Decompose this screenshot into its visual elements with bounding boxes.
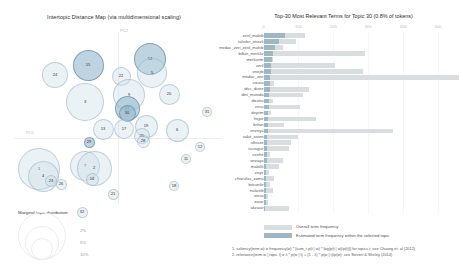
x-axis-tick-label: 300 (365, 24, 372, 29)
right-panel-title: Top-30 Most Relevant Terms for Topic 30 … (228, 13, 459, 19)
term-row[interactable]: zeyir (232, 170, 459, 176)
topic-bubble-label: 24 (53, 73, 57, 77)
x-axis-tick-label: 400 (400, 24, 407, 29)
term-label[interactable]: zeyir (255, 170, 264, 175)
overall-frequency-bar (264, 140, 291, 145)
term-row[interactable]: vizura (232, 81, 459, 87)
estimated-frequency-bar (264, 39, 279, 44)
term-label[interactable]: tahriler_enezli (238, 39, 264, 44)
term-label[interactable]: vizura (253, 80, 264, 85)
topic-bubble-label: 28 (141, 139, 145, 143)
x-axis-tick-label: 100 (295, 24, 302, 29)
overall-frequency-swatch (264, 225, 292, 230)
term-row[interactable]: sirehe (232, 152, 459, 158)
term-label[interactable]: bitcunile (248, 182, 263, 187)
term-row[interactable]: deyrim (232, 110, 459, 116)
term-label[interactable]: sirehe (252, 152, 263, 157)
term-label[interactable]: merkurim (246, 57, 263, 62)
term-row[interactable]: ulhisze (232, 140, 459, 146)
estimated-frequency-bar (264, 99, 270, 104)
term-label[interactable]: zarar (254, 199, 263, 204)
term-label[interactable]: zeril_mahib (243, 33, 264, 38)
term-label[interactable]: malollit (251, 164, 264, 169)
term-row[interactable]: enejib (232, 69, 459, 75)
term-row[interactable]: britan (232, 122, 459, 128)
pyldavis-app: Intertopic Distance Map (via multidimens… (0, 0, 459, 277)
term-row[interactable]: onzaya (232, 158, 459, 164)
term-row[interactable]: merkurim (232, 57, 459, 63)
intertopic-distance-map[interactable]: PC2 PC1 24153145229202730131719252862914… (14, 26, 222, 204)
marginal-legend-percent: 10% (80, 252, 88, 257)
overall-frequency-bar (264, 135, 298, 140)
overall-frequency-bar (264, 87, 309, 92)
term-row[interactable]: malollit (232, 164, 459, 170)
marginal-legend-ring (31, 238, 53, 260)
overall-frequency-bar (264, 51, 365, 56)
term-row[interactable]: akzasir (232, 206, 459, 212)
estimated-frequency-bar (264, 140, 268, 145)
topic-bubble-label: 20 (167, 92, 171, 96)
overall-frequency-bar (264, 117, 316, 122)
estimated-frequency-bar (264, 81, 271, 86)
term-label[interactable]: zieva (254, 193, 264, 198)
term-row[interactable]: dini_munida (232, 93, 459, 99)
estimated-frequency-bar (264, 75, 271, 80)
legend-row-overall: Overall term frequency (264, 224, 459, 231)
term-row[interactable]: medac_zeri (232, 75, 459, 81)
estimated-frequency-bar (264, 57, 272, 62)
term-row[interactable]: medac_zeri_zeril_mahib (232, 45, 459, 51)
term-row[interactable]: bilkar_merkliz (232, 51, 459, 57)
term-label[interactable]: diezira (251, 98, 263, 103)
term-label[interactable]: britan (253, 122, 263, 127)
term-row[interactable]: zeril_mahib (232, 33, 459, 39)
topic-bubble-label: 26 (59, 182, 63, 186)
term-label[interactable]: onzaya (250, 158, 263, 163)
topic-bubble-label: 11 (184, 157, 188, 161)
term-label[interactable]: akzasir (251, 205, 264, 210)
topic-bubble-label: 22 (119, 74, 123, 78)
formula-notes: 1. saliency(term w) = frequency(w) * [su… (232, 246, 458, 259)
topic-bubble-label: 13 (101, 127, 105, 131)
term-label[interactable]: ulhisze (251, 140, 264, 145)
term-label[interactable]: iscragce (248, 146, 263, 151)
term-row[interactable]: chiurulas_zoma (232, 176, 459, 182)
term-row[interactable]: zieva (232, 194, 459, 200)
axis-label-pc1: PC1 (26, 130, 34, 135)
term-row[interactable]: zarar (232, 200, 459, 206)
term-row[interactable]: tahriler_enezli (232, 39, 459, 45)
term-row[interactable]: diezira (232, 98, 459, 104)
term-row[interactable]: vakit_zaten (232, 134, 459, 140)
term-frequency-barchart: 0100200300400500 zeril_mahibtahriler_ene… (232, 24, 459, 216)
term-row[interactable]: hiçpir (232, 116, 459, 122)
term-label[interactable]: enejib (253, 69, 264, 74)
term-label[interactable]: chiurulas_zoma (235, 176, 264, 181)
x-axis-tick-label: 500 (435, 24, 442, 29)
overall-frequency-bar (264, 105, 301, 110)
estimated-frequency-bar (264, 51, 273, 56)
term-row[interactable]: bitcunile (232, 182, 459, 188)
overall-frequency-bar (264, 206, 290, 211)
term-label[interactable]: dini_munida (241, 92, 263, 97)
term-label[interactable]: medac_zeri (242, 74, 263, 79)
term-label[interactable]: virsu (255, 104, 264, 109)
term-row[interactable]: zeril (232, 63, 459, 69)
term-row[interactable]: virsu (232, 104, 459, 110)
term-row[interactable]: nulareb (232, 188, 459, 194)
term-label[interactable]: zeril (256, 63, 264, 68)
term-row[interactable]: idvc_dizire (232, 87, 459, 93)
estimated-frequency-bar (264, 117, 269, 122)
term-row[interactable]: enzeya (232, 128, 459, 134)
topic-bubble-label: 17 (122, 127, 126, 131)
term-label[interactable]: enzeya (250, 128, 263, 133)
term-label[interactable]: nulareb (250, 188, 264, 193)
term-label[interactable]: bilkar_merkliz (238, 51, 263, 56)
term-label[interactable]: idvc_dizire (244, 86, 263, 91)
term-label[interactable]: vakit_zaten (243, 134, 264, 139)
term-label[interactable]: hiçpir (254, 116, 264, 121)
left-panel-title: Intertopic Distance Map (via multidimens… (0, 14, 228, 20)
estimated-frequency-bar (264, 93, 270, 98)
term-label[interactable]: medac_zeri_zeril_mahib (219, 45, 263, 50)
term-row[interactable]: iscragce (232, 146, 459, 152)
topic-bubble-label: 15 (86, 63, 90, 67)
term-label[interactable]: deyrim (251, 110, 263, 115)
